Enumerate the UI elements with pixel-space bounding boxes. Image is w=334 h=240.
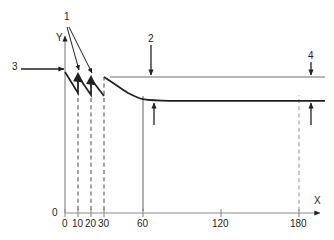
x-tick-label-120: 120 xyxy=(212,219,229,229)
callout-1-leaders xyxy=(67,27,92,73)
sawtooth-arrowhead-2 xyxy=(73,72,83,82)
callout-1-leader-b xyxy=(69,27,92,73)
figure-container: Y X 0 0 10 20 30 60 120 180 1 2 3 4 xyxy=(0,0,334,240)
x-axis-label: X xyxy=(314,196,321,206)
vertical-reference-lines xyxy=(78,77,299,211)
callout-label-4: 4 xyxy=(308,51,314,61)
x-tick-label-60: 60 xyxy=(137,219,148,229)
x-tick-label-30: 30 xyxy=(98,219,109,229)
callout-1-leader-a xyxy=(67,27,79,70)
y-axis-label: Y xyxy=(56,33,63,43)
axis-group xyxy=(65,36,320,213)
origin-label: 0 xyxy=(52,208,58,218)
x-tick-label-0: 0 xyxy=(62,219,68,229)
sawtooth-arrowheads xyxy=(73,72,96,85)
sawtooth-segment xyxy=(65,72,104,96)
callout-label-1: 1 xyxy=(64,12,70,22)
sawtooth-arrowhead-3 xyxy=(86,75,96,85)
line-chart-svg xyxy=(0,0,334,240)
x-tick-label-10: 10 xyxy=(72,219,83,229)
callout-label-3: 3 xyxy=(12,62,18,72)
callout-label-2: 2 xyxy=(148,34,154,44)
x-tick-label-20: 20 xyxy=(85,219,96,229)
x-tick-label-180: 180 xyxy=(290,219,307,229)
decay-segment xyxy=(104,77,325,101)
